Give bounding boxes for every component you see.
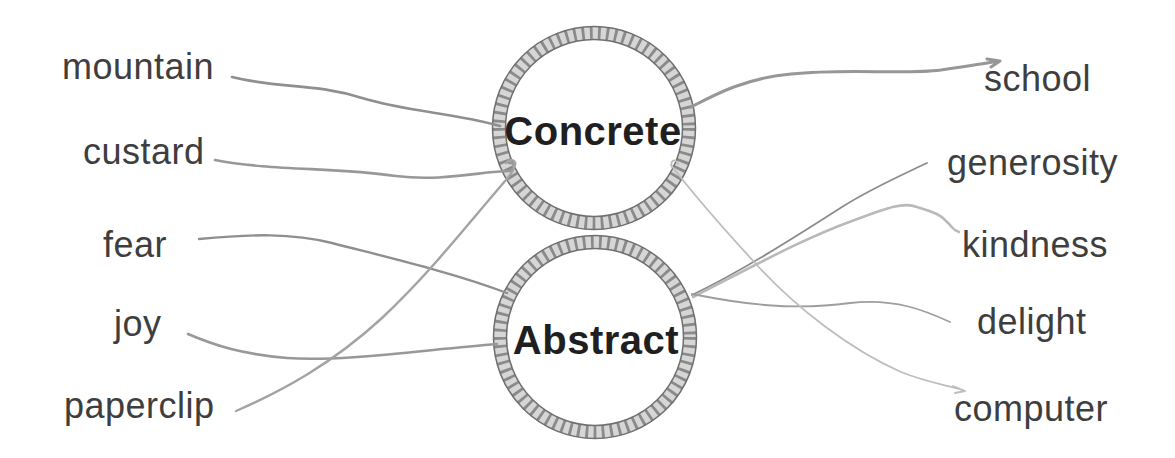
connection-line-kindness [693, 205, 959, 297]
word-computer: computer [954, 391, 1108, 427]
connection-line-joy [188, 334, 497, 359]
connection-line-generosity [692, 163, 927, 295]
word-paperclip: paperclip [64, 388, 215, 424]
connection-line-school [691, 59, 1000, 107]
connection-line-paperclip [236, 160, 515, 411]
word-joy: joy [114, 306, 162, 342]
category-label-concrete: Concrete [504, 109, 681, 154]
connection-line-mountain [232, 77, 500, 126]
word-school: school [984, 61, 1091, 97]
connection-line-delight [692, 294, 950, 322]
word-kindness: kindness [962, 227, 1108, 263]
word-delight: delight [977, 304, 1087, 340]
word-mountain: mountain [62, 49, 214, 85]
category-label-abstract: Abstract [513, 318, 679, 363]
connection-line-computer [671, 160, 965, 393]
word-custard: custard [83, 134, 205, 170]
word-fear: fear [103, 227, 167, 263]
connection-line-fear [199, 235, 507, 293]
worksheet-page: Concrete Abstract mountain custard fear … [0, 0, 1175, 458]
word-generosity: generosity [947, 145, 1118, 181]
connection-line-custard [215, 160, 514, 178]
